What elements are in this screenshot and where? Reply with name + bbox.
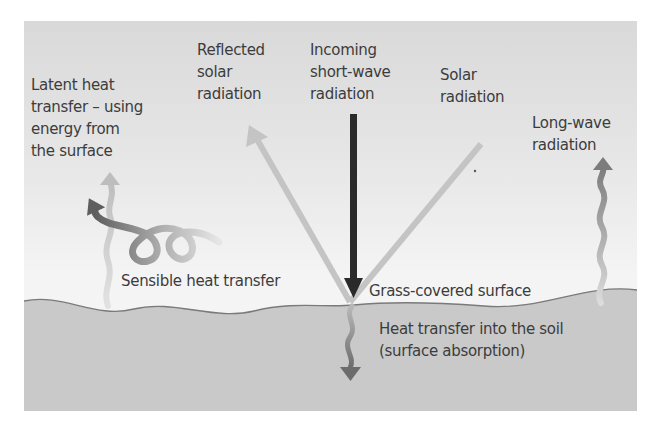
long-wave-label: Long-wave radiation: [532, 112, 611, 156]
solar-radiation-label: Solar radiation: [440, 64, 504, 108]
energy-balance-diagram: Latent heat transfer – using energy from…: [24, 21, 637, 411]
solar-radiation-beam: [350, 144, 481, 302]
incoming-short-wave-arrow: [344, 114, 363, 298]
sensible-heat-arrow: [81, 194, 219, 262]
reflected-solar-label: Reflected solar radiation: [197, 39, 265, 105]
long-wave-arrow: [593, 157, 613, 303]
latent-heat-label: Latent heat transfer – using energy from…: [31, 74, 143, 162]
grass-surface-label: Grass-covered surface: [369, 280, 531, 302]
soil-heat-transfer-label: Heat transfer into the soil (surface abs…: [379, 318, 563, 362]
latent-heat-arrow: [100, 172, 120, 306]
incoming-short-wave-label: Incoming short-wave radiation: [310, 39, 391, 105]
sensible-heat-label: Sensible heat transfer: [121, 270, 280, 292]
